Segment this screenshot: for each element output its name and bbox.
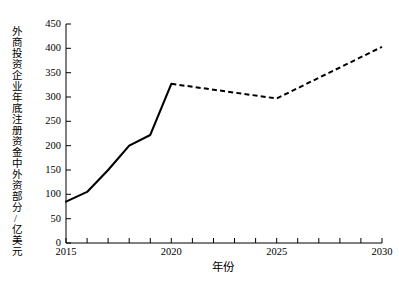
- chart-figure: 外商投资企业年底注册资金中外资部分/亿美元: [0, 0, 399, 281]
- y-tick-label-50: 50: [34, 213, 61, 224]
- y-tick-label-200: 200: [34, 140, 61, 151]
- y-tick-label-350: 350: [34, 67, 61, 78]
- y-axis-ticks: [66, 24, 71, 243]
- x-tick-label-2025: 2025: [266, 247, 287, 258]
- series-line-dashed: [171, 47, 382, 99]
- series-line-solid: [66, 84, 171, 202]
- x-axis-label: 年份: [212, 258, 234, 274]
- x-tick-label-2030: 2030: [372, 247, 393, 258]
- x-tick-label-2015: 2015: [56, 247, 77, 258]
- y-tick-label-150: 150: [34, 165, 61, 176]
- y-tick-label-100: 100: [34, 189, 61, 200]
- y-tick-label-400: 400: [34, 43, 61, 54]
- x-axis-ticks: [66, 238, 382, 243]
- x-tick-label-2020: 2020: [161, 247, 182, 258]
- y-tick-label-300: 300: [34, 92, 61, 103]
- y-tick-label-250: 250: [34, 116, 61, 127]
- y-tick-label-450: 450: [34, 19, 61, 30]
